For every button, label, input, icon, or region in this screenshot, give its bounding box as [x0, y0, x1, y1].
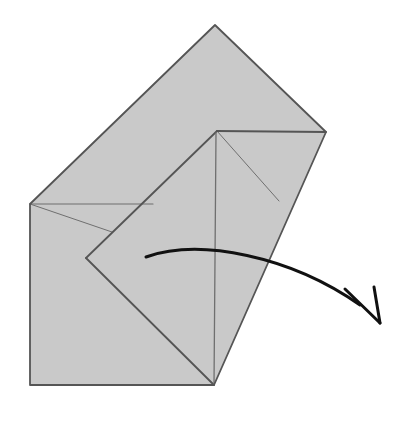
- origami-fold-diagram: [0, 0, 408, 421]
- fold-line-inner-top-edge-crease: [217, 131, 326, 132]
- paper-outline-shape: [30, 25, 326, 385]
- figure-canvas: [0, 0, 408, 421]
